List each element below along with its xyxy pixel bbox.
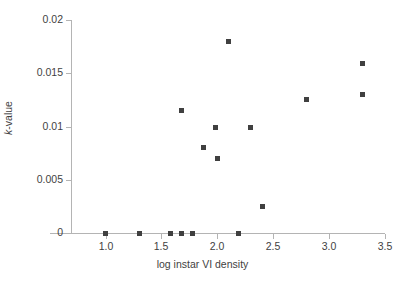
x-tick-mark (273, 234, 274, 239)
y-tick-label: 0.01 (43, 121, 63, 132)
data-point (179, 231, 184, 236)
data-point (226, 39, 231, 44)
y-tick-mark (66, 233, 71, 234)
y-tick-label-wrap: 0.015 (0, 67, 63, 79)
y-tick-label: 0.02 (43, 14, 63, 25)
x-tick-label: 3.0 (309, 241, 349, 252)
y-tick-label: 0 (57, 227, 63, 238)
data-point (360, 61, 365, 66)
data-point (304, 97, 309, 102)
plot-area (72, 20, 385, 233)
y-tick-label: 0.015 (37, 67, 63, 78)
y-axis-title: k-value (2, 88, 14, 148)
y-axis-title-rest: -value (2, 101, 14, 130)
x-tick-label: 1.5 (141, 241, 181, 252)
y-tick-mark (66, 180, 71, 181)
x-tick-mark (329, 234, 330, 239)
data-point (248, 125, 253, 130)
data-point (215, 156, 220, 161)
x-tick-mark (161, 234, 162, 239)
y-tick-mark (66, 20, 71, 21)
data-point (360, 92, 365, 97)
data-point (179, 108, 184, 113)
y-tick-label-wrap: 0.02 (0, 14, 63, 26)
data-point (137, 231, 142, 236)
data-point (201, 145, 206, 150)
x-tick-mark (217, 234, 218, 239)
y-tick-label: 0.005 (37, 174, 63, 185)
data-point (213, 125, 218, 130)
y-axis-title-italic-k: k (2, 130, 14, 135)
x-tick-label: 3.5 (365, 241, 405, 252)
data-point (190, 231, 195, 236)
y-tick-mark (66, 73, 71, 74)
y-tick-label-wrap: 0.005 (0, 174, 63, 186)
data-point (260, 204, 265, 209)
scatter-plot-figure: 00.0050.010.0150.02 1.01.52.02.53.03.5 l… (0, 0, 405, 281)
x-tick-label: 1.0 (86, 241, 126, 252)
x-tick-label: 2.0 (197, 241, 237, 252)
y-tick-mark (66, 127, 71, 128)
data-point (168, 231, 173, 236)
x-tick-mark (385, 234, 386, 239)
x-tick-label: 2.5 (253, 241, 293, 252)
x-axis-title: log instar VI density (0, 258, 405, 270)
data-point (103, 231, 108, 236)
y-tick-label-wrap: 0 (0, 227, 63, 239)
data-point (236, 231, 241, 236)
